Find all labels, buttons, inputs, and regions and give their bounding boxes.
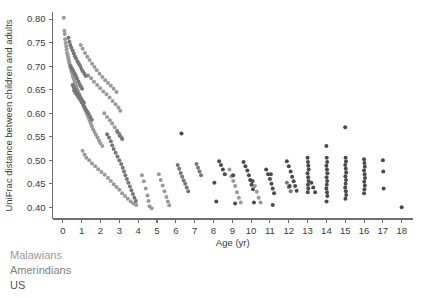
- data-point: [344, 182, 348, 186]
- y-tick-label: 0.55: [27, 131, 46, 142]
- x-tick-label: 4: [136, 225, 141, 236]
- data-point: [325, 168, 329, 172]
- x-tick-label: 16: [359, 225, 370, 236]
- data-point: [115, 154, 119, 158]
- data-point: [177, 167, 181, 171]
- data-point: [126, 197, 130, 201]
- data-point: [343, 185, 347, 189]
- data-point: [146, 193, 150, 197]
- data-point: [109, 84, 113, 88]
- data-point: [272, 191, 276, 195]
- data-point: [96, 167, 100, 171]
- data-point: [144, 186, 148, 190]
- data-point: [217, 159, 221, 163]
- data-point: [85, 55, 89, 59]
- data-point: [289, 189, 293, 193]
- data-point: [231, 179, 235, 183]
- data-point: [293, 184, 297, 188]
- data-point: [255, 190, 259, 194]
- data-point: [176, 163, 180, 167]
- data-point: [306, 183, 310, 187]
- data-point: [150, 206, 154, 210]
- data-point: [363, 184, 367, 188]
- x-tick-label: 3: [117, 225, 122, 236]
- data-point: [269, 182, 273, 186]
- data-point: [363, 165, 367, 169]
- data-point: [306, 190, 310, 194]
- data-point: [362, 161, 366, 165]
- data-point: [325, 156, 329, 160]
- data-point: [250, 179, 254, 183]
- data-point: [233, 201, 237, 205]
- data-point: [123, 194, 127, 198]
- data-point: [117, 158, 121, 162]
- data-point: [306, 160, 310, 164]
- data-point: [268, 177, 272, 181]
- data-point: [159, 178, 163, 182]
- x-tick-label: 17: [378, 225, 389, 236]
- data-point: [219, 163, 223, 167]
- data-point: [343, 163, 347, 167]
- data-point: [362, 157, 366, 161]
- data-point: [93, 164, 97, 168]
- data-point: [344, 178, 348, 182]
- legend-item-us: US: [10, 276, 71, 291]
- data-points-layer: [62, 16, 404, 211]
- data-point: [112, 87, 116, 91]
- data-point: [214, 200, 218, 204]
- data-point: [343, 125, 347, 129]
- data-point: [179, 131, 183, 135]
- data-point: [120, 191, 124, 195]
- data-point: [198, 169, 202, 173]
- data-point: [106, 176, 110, 180]
- data-point: [108, 118, 112, 122]
- x-tick-label: 11: [265, 225, 275, 236]
- data-point: [111, 99, 115, 103]
- data-point: [306, 186, 310, 190]
- data-point: [245, 169, 249, 173]
- data-point: [233, 184, 237, 188]
- data-point: [109, 179, 113, 183]
- data-point: [161, 184, 165, 188]
- data-point: [239, 201, 243, 205]
- scatter-plot-figure: 0.400.450.500.550.600.650.700.750.800123…: [0, 0, 429, 298]
- data-point: [98, 86, 102, 90]
- axis-labels-layer: 0.400.450.500.550.600.650.700.750.800123…: [3, 13, 407, 248]
- data-point: [79, 43, 83, 47]
- data-point: [105, 92, 109, 96]
- data-point: [292, 179, 296, 183]
- data-point: [344, 170, 348, 174]
- data-point: [324, 164, 328, 168]
- x-tick-label: 7: [192, 225, 197, 236]
- data-point: [313, 190, 317, 194]
- data-point: [195, 162, 199, 166]
- data-point: [105, 115, 109, 119]
- data-point: [88, 58, 92, 62]
- legend-item-malawians: Malawians: [10, 246, 71, 261]
- data-point: [235, 190, 239, 194]
- data-point: [344, 189, 348, 193]
- data-point: [80, 87, 84, 91]
- data-point: [147, 199, 151, 203]
- data-point: [324, 144, 328, 148]
- data-point: [113, 125, 117, 129]
- y-tick-label: 0.40: [27, 202, 46, 213]
- data-point: [212, 181, 216, 185]
- x-tick-label: 6: [173, 225, 178, 236]
- data-point: [311, 185, 315, 189]
- y-tick-label: 0.80: [27, 13, 46, 24]
- data-point: [259, 201, 263, 205]
- data-point: [112, 147, 116, 151]
- x-tick-label: 1: [79, 225, 84, 236]
- x-tick-label: 15: [340, 225, 351, 236]
- data-point: [122, 169, 126, 173]
- data-point: [243, 164, 247, 168]
- data-point: [90, 62, 94, 66]
- data-point: [164, 195, 168, 199]
- series-amerindians: [67, 36, 293, 203]
- data-point: [117, 188, 121, 192]
- data-point: [343, 197, 347, 201]
- data-point: [183, 182, 187, 186]
- legend-item-amerindians: Amerindians: [10, 261, 71, 276]
- series-us: [179, 125, 403, 209]
